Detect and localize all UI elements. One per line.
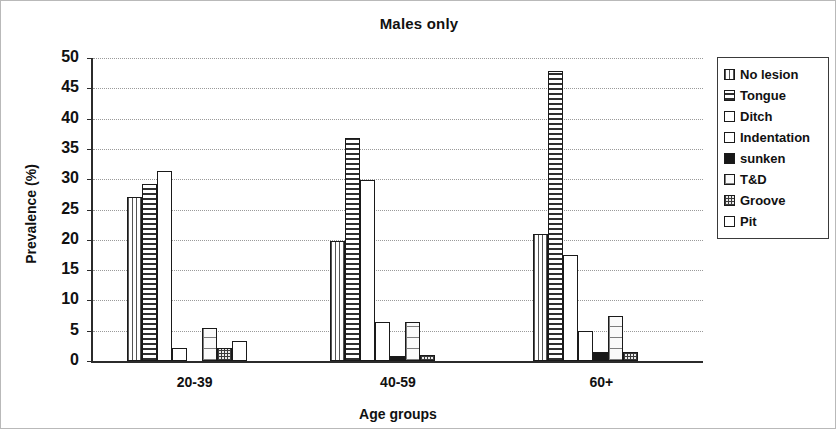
bar-60--no-lesion — [533, 234, 548, 361]
legend-item-pit: Pit — [724, 211, 824, 232]
y-tick-mark — [87, 149, 93, 150]
y-tick-mark — [87, 88, 93, 89]
legend-swatch-icon — [724, 216, 735, 227]
y-tick-mark — [87, 361, 93, 362]
legend-item-indentation: Indentation — [724, 127, 824, 148]
legend-swatch-icon — [724, 90, 735, 101]
legend-item-label: Groove — [740, 194, 786, 207]
bar-40-59-groove — [420, 355, 435, 361]
bar-20-39-t-d — [202, 328, 217, 361]
gridline — [93, 210, 703, 211]
y-tick-mark — [87, 270, 93, 271]
y-tick-mark — [87, 58, 93, 59]
bar-20-39-pit — [232, 341, 247, 361]
legend-swatch-icon — [724, 195, 735, 206]
bar-60--tongue — [548, 71, 563, 361]
gridline — [93, 149, 703, 150]
gridline — [93, 179, 703, 180]
gridline — [93, 119, 703, 120]
gridline — [93, 88, 703, 89]
y-tick-label: 45 — [31, 80, 79, 94]
legend-item-label: Ditch — [740, 110, 773, 123]
legend-swatch-icon — [724, 111, 735, 122]
x-tick-label: 40-59 — [318, 374, 478, 390]
gridline — [93, 270, 703, 271]
legend-swatch-icon — [724, 69, 735, 80]
legend-item-label: Tongue — [740, 89, 786, 102]
y-tick-label: 35 — [31, 141, 79, 155]
y-tick-mark — [87, 240, 93, 241]
bar-60--t-d — [608, 316, 623, 361]
bar-60--sunken — [593, 352, 608, 361]
bar-40-59-no-lesion — [330, 241, 345, 361]
legend-item-ditch: Ditch — [724, 106, 824, 127]
bar-40-59-t-d — [405, 322, 420, 361]
x-tick-label: 20-39 — [115, 374, 275, 390]
bar-40-59-tongue — [345, 138, 360, 361]
legend-item-no-lesion: No lesion — [724, 64, 824, 85]
legend-item-sunken: sunken — [724, 148, 824, 169]
legend-item-t-d: T&D — [724, 169, 824, 190]
bar-20-39-no-lesion — [127, 197, 142, 361]
bar-40-59-sunken — [390, 356, 405, 361]
chart-title: Males only — [1, 15, 836, 32]
bar-40-59-indentation — [375, 322, 390, 361]
bar-20-39-tongue — [142, 184, 157, 361]
x-axis-label: Age groups — [93, 406, 703, 422]
bar-20-39-ditch — [157, 171, 172, 361]
bar-60--groove — [623, 352, 638, 361]
y-tick-mark — [87, 300, 93, 301]
legend-item-tongue: Tongue — [724, 85, 824, 106]
y-tick-label: 25 — [31, 202, 79, 216]
legend-swatch-icon — [724, 153, 735, 164]
legend-item-label: No lesion — [740, 68, 799, 81]
chart-figure: Males only Prevalence (%) 05101520253035… — [0, 0, 836, 429]
legend-item-label: Indentation — [740, 131, 810, 144]
bar-60--indentation — [578, 331, 593, 361]
y-tick-label: 0 — [31, 353, 79, 367]
bar-20-39-indentation — [172, 348, 187, 361]
y-tick-label: 30 — [31, 171, 79, 185]
legend-swatch-icon — [724, 132, 735, 143]
bar-60--ditch — [563, 255, 578, 361]
chart-legend: No lesionTongueDitchIndentationsunkenT&D… — [717, 57, 829, 239]
x-tick-label: 60+ — [521, 374, 681, 390]
y-tick-mark — [87, 210, 93, 211]
gridline — [93, 300, 703, 301]
y-tick-label: 50 — [31, 50, 79, 64]
plot-area: Prevalence (%) 05101520253035404550 20-3… — [91, 58, 703, 363]
y-tick-mark — [87, 179, 93, 180]
gridline — [93, 240, 703, 241]
y-tick-label: 20 — [31, 232, 79, 246]
legend-item-label: sunken — [740, 152, 786, 165]
y-tick-label: 10 — [31, 292, 79, 306]
legend-swatch-icon — [724, 174, 735, 185]
legend-item-label: Pit — [740, 215, 757, 228]
gridline — [93, 58, 703, 59]
bar-20-39-groove — [217, 348, 232, 361]
y-tick-label: 40 — [31, 111, 79, 125]
y-tick-mark — [87, 331, 93, 332]
y-tick-label: 5 — [31, 323, 79, 337]
legend-item-label: T&D — [740, 173, 767, 186]
bar-40-59-ditch — [360, 180, 375, 361]
y-tick-mark — [87, 119, 93, 120]
y-tick-label: 15 — [31, 262, 79, 276]
legend-item-groove: Groove — [724, 190, 824, 211]
